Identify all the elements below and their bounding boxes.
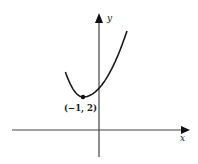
y-axis-arrow-icon [95, 13, 103, 23]
graph-canvas: y x (−1, 2) [0, 0, 198, 164]
vertex-point [81, 95, 85, 99]
vertex-label: (−1, 2) [64, 103, 97, 114]
y-axis-label: y [106, 13, 113, 23]
x-axis-label: x [180, 133, 185, 143]
parabola-graph: y x (−1, 2) [0, 0, 198, 164]
parabola-curve [65, 31, 127, 97]
